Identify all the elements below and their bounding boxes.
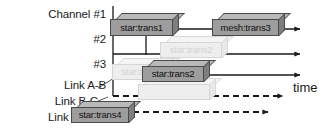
block-star-trans1-side-face (173, 13, 179, 36)
row-label-ch3: #3 (30, 58, 106, 70)
ghost-block-lower-side-face (210, 78, 216, 100)
block-mesh-trans3-front-face: mesh:trans3 (212, 19, 279, 36)
block-star-trans1-front-face: star:trans1 (110, 19, 173, 36)
block-star-trans1-label: star:trans1 (120, 23, 163, 33)
block-mesh-trans3-label: mesh:trans3 (220, 23, 270, 33)
block-mesh-trans3-side-face (279, 13, 285, 36)
ghost-block-lower-front-face (138, 84, 210, 100)
row-label-ch1: Channel #1 (30, 8, 106, 20)
block-star-trans2-label: star:trans2 (152, 69, 195, 79)
block-star-trans4-side-face (129, 101, 135, 123)
block-star-trans2: star:trans2 (142, 60, 210, 82)
block-star-trans2-side-face (204, 60, 210, 82)
block-mesh-trans3: mesh:trans3 (212, 13, 285, 36)
block-star-trans4-front-face: star:trans4 (71, 107, 129, 123)
ghost-star-trans2-ch2-label: star:trans2 (170, 45, 213, 55)
time-axis-label: time (293, 80, 318, 95)
ghost-star-trans2-ch2-front-face: star:trans2 (160, 42, 222, 58)
block-star-trans4-label: star:trans4 (79, 110, 122, 120)
diagram-canvas: Channel #1#2#3Link A-BLink B-CLink C-D s… (0, 0, 323, 133)
block-star-trans2-front-face: star:trans2 (142, 66, 204, 82)
row-label-ch2: #2 (30, 33, 106, 45)
row-label-linkab: Link A-B (26, 79, 106, 91)
ghost-star-trans2-ch2-side-face (222, 36, 228, 58)
block-star-trans4: star:trans4 (71, 101, 135, 123)
ghost-star-trans2-ch2: star:trans2 (160, 36, 228, 58)
block-star-trans1: star:trans1 (110, 13, 179, 36)
